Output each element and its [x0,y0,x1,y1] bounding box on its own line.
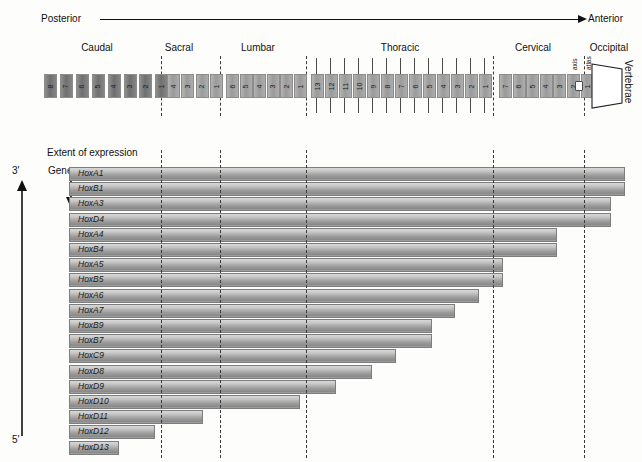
vertebra-number: 6 [229,84,236,88]
expression-bar [69,167,625,181]
separator-thoracic-cervical-top [493,56,494,116]
vertebra-cervical-4: 4 [540,74,553,98]
vertebra-cervical-5: 5 [526,74,539,98]
vertebra-number: 7 [63,84,70,88]
vertebra-caudal-3: 3 [124,74,137,98]
vertebra-cervical-6: 6 [513,74,526,98]
vertebra-lumbar-3: 3 [267,74,280,98]
vertebra-number: 5 [243,84,250,88]
region-title-cervical: Cervical [498,42,568,53]
vertebra-thoracic-8: 8 [381,74,394,98]
expression-bar [69,228,557,242]
region-title-sacral: Sacral [149,42,209,53]
expression-bar [69,380,336,394]
vertebra-number: 3 [270,84,277,88]
vertebra-number: 3 [454,84,461,88]
expression-bar [69,197,611,211]
vertebra-number: 9 [370,84,377,88]
vertebra-number: 2 [283,84,290,88]
vertebra-number: 1 [482,84,489,88]
occipital-bone-shape [590,62,624,110]
vertebra-thoracic-5: 5 [423,74,436,98]
vertebra-number: 2 [142,84,149,88]
vertebra-number: 10 [356,82,363,90]
figure-canvas: Posterior Anterior Caudal Sacral Lumbar … [0,0,642,462]
vertebra-number: 5 [426,84,433,88]
vertebra-thoracic-12: 12 [325,74,338,98]
extent-of-expression-label: Extent of expression [47,147,138,158]
expression-bar [69,334,432,348]
expression-bar [69,258,503,272]
separator-caudal-sacral-chart [161,150,162,458]
axis-label-posterior: Posterior [41,13,81,24]
region-title-occipital: Occipital [578,42,640,53]
vertebra-number: 4 [170,84,177,88]
vertebra-thoracic-13: 13 [311,74,324,98]
vertebra-thoracic-6: 6 [409,74,422,98]
region-title-lumbar: Lumbar [222,42,294,53]
expression-bar [69,319,432,333]
vertebra-lumbar-5: 5 [240,74,253,98]
separator-sacral-lumbar-chart [220,150,221,458]
separator-cervical-occipital-chart [584,150,585,458]
expression-bar [69,304,455,318]
arrow-up-icon [14,178,30,440]
vertebra-number: 8 [47,84,54,88]
vertebra-sacral-4: 4 [167,74,180,98]
separator-lumbar-thoracic-chart [306,150,307,458]
vertebra-number: 7 [502,84,509,88]
vertebra-caudal-7: 7 [60,74,73,98]
vertebra-number: 4 [440,84,447,88]
expression-bar [69,182,625,196]
vertebra-thoracic-9: 9 [367,74,380,98]
vertebra-lumbar-4: 4 [253,74,266,98]
vertebra-thoracic-4: 4 [437,74,450,98]
vertebra-number: 3 [127,84,134,88]
vertebra-thoracic-10: 10 [353,74,366,98]
vertebra-number: 1 [297,84,304,88]
vertebra-sacral-3: 3 [181,74,194,98]
expression-bar [69,213,611,227]
vertebra-number: 3 [556,84,563,88]
expression-bar [69,441,119,455]
vertebra-lumbar-1: 1 [294,74,307,98]
vertebra-thoracic-1: 1 [479,74,492,98]
expression-bar [69,289,479,303]
vertebra-number: 5 [95,84,102,88]
vertebra-thoracic-7: 7 [395,74,408,98]
vertebra-thoracic-3: 3 [451,74,464,98]
region-title-thoracic: Thoracic [345,42,455,53]
vertebra-number: 3 [184,84,191,88]
vertebra-number: 6 [79,84,86,88]
expression-bar [69,425,155,439]
vertebra-lumbar-6: 6 [226,74,239,98]
vertebra-number: 8 [384,84,391,88]
vertebra-label-axis: axis [571,58,578,70]
expression-bar [69,273,503,287]
vertebra-number: 4 [256,84,263,88]
vertebra-caudal-5: 5 [92,74,105,98]
vertebrae-axis-title: Vertebrae [623,60,634,103]
vertebra-cervical-3: 3 [553,74,566,98]
vertebra-lumbar-2: 2 [280,74,293,98]
three-prime-label: 3' [12,165,19,176]
region-title-caudal: Caudal [57,42,137,53]
vertebra-number: 11 [342,82,349,89]
vertebra-thoracic-2: 2 [465,74,478,98]
vertebra-number: 6 [516,84,523,88]
vertebra-number: 2 [199,84,206,88]
atlas-ring-shape [575,81,583,91]
orientation-axis-line [100,19,580,20]
vertebra-number: 5 [529,84,536,88]
separator-thoracic-cervical-chart [493,150,494,458]
vertebra-cervical-7: 7 [499,74,512,98]
vertebra-number: 2 [468,84,475,88]
expression-bar [69,243,557,257]
vertebra-number: 13 [314,82,321,90]
expression-bar [69,395,300,409]
vertebra-caudal-2: 2 [139,74,152,98]
vertebra-caudal-6: 6 [76,74,89,98]
vertebra-number: 4 [111,84,118,88]
vertebra-number: 1 [158,84,165,88]
arrow-right-icon [578,15,587,23]
